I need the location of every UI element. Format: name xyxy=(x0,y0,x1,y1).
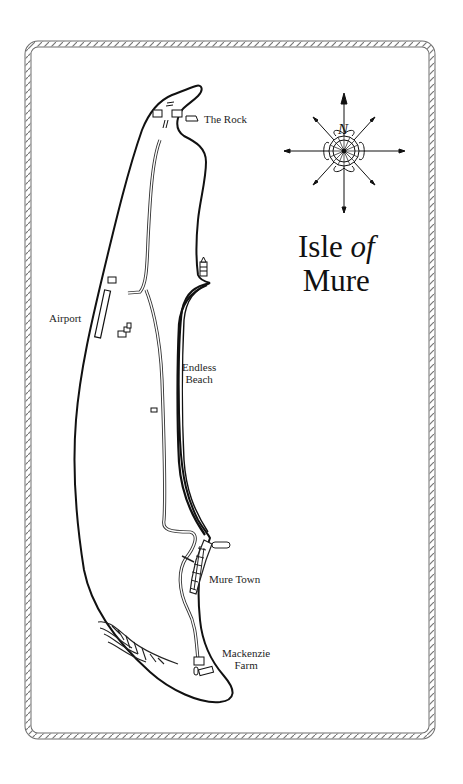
mackenzie-farm xyxy=(194,657,214,676)
label-mackenzie-farm: Mackenzie Farm xyxy=(222,647,270,671)
label-the-rock: The Rock xyxy=(204,113,247,125)
label-text: Mure Town xyxy=(209,573,260,585)
island-road xyxy=(128,140,198,660)
rope-border xyxy=(28,44,432,736)
label-mure-town: Mure Town xyxy=(209,573,260,585)
compass-north-label: N xyxy=(337,121,349,137)
title-of: of xyxy=(351,229,375,264)
title-line-1: Isle of xyxy=(298,230,375,264)
label-text: Airport xyxy=(49,312,81,324)
compass-rose xyxy=(284,93,405,213)
label-text-line1: Endless xyxy=(182,361,216,373)
mure-town xyxy=(182,540,230,594)
label-airport: Airport xyxy=(49,312,81,324)
label-text-line2: Beach xyxy=(182,373,216,385)
label-text: The Rock xyxy=(204,113,247,125)
endless-beach-shore xyxy=(178,283,211,535)
label-endless-beach: Endless Beach xyxy=(182,361,216,385)
north-settlement xyxy=(153,102,198,128)
title-mure: Mure xyxy=(298,264,375,298)
label-text-line1: Mackenzie xyxy=(222,647,270,659)
lighthouse-icon xyxy=(200,257,207,276)
map-title: Isle of Mure xyxy=(298,230,375,298)
title-isle: Isle xyxy=(298,229,351,264)
label-text-line2: Farm xyxy=(222,659,270,671)
